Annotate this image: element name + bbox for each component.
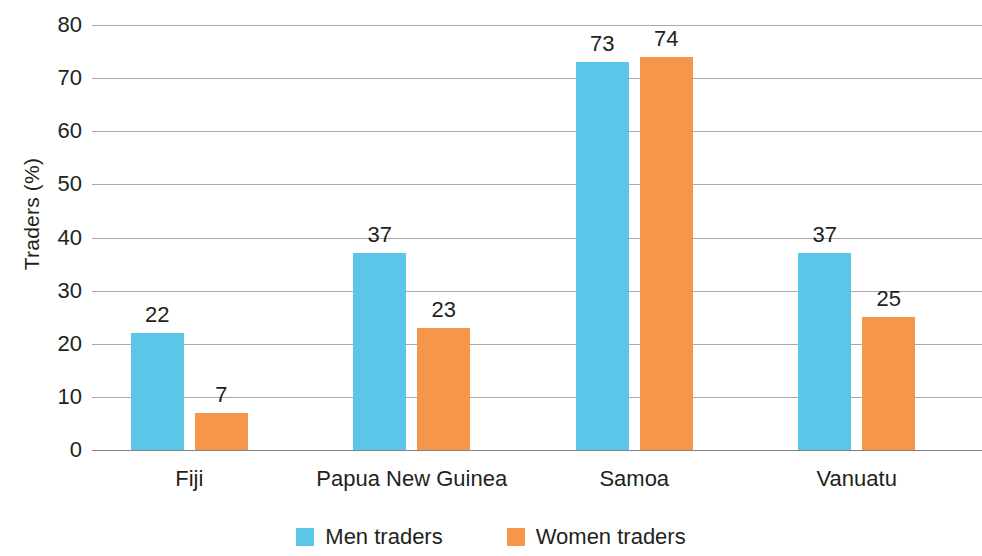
bar (862, 317, 915, 450)
y-axis-tick-label: 70 (12, 65, 82, 91)
bar-value-label: 25 (877, 286, 901, 312)
legend-swatch-icon (296, 528, 314, 546)
legend-item[interactable]: Men traders (296, 524, 442, 550)
gridline (92, 78, 982, 79)
bar-value-label: 37 (368, 222, 392, 248)
bar (640, 57, 693, 450)
chart-legend: Men tradersWomen traders (0, 524, 982, 550)
bar-value-label: 74 (654, 26, 678, 52)
legend-swatch-icon (507, 528, 525, 546)
y-axis-tick-label: 40 (12, 225, 82, 251)
bar-value-label: 23 (432, 297, 456, 323)
axis-baseline (92, 450, 982, 451)
legend-item[interactable]: Women traders (507, 524, 686, 550)
y-axis-tick-label: 80 (12, 12, 82, 38)
y-axis-tick-labels: 01020304050607080 (0, 25, 82, 450)
gridline (92, 184, 982, 185)
bar-value-label: 37 (813, 222, 837, 248)
y-axis-tick-label: 30 (12, 278, 82, 304)
y-axis-tick-label: 60 (12, 118, 82, 144)
x-axis-category-label: Fiji (175, 466, 203, 492)
bar (131, 333, 184, 450)
legend-label: Men traders (325, 524, 442, 550)
bar-value-label: 73 (590, 31, 614, 57)
gridline (92, 25, 982, 26)
bar (798, 253, 851, 450)
bar-value-label: 7 (215, 382, 227, 408)
bar-chart: Traders (%) 01020304050607080 2273723737… (0, 0, 982, 556)
x-axis-category-label: Samoa (599, 466, 669, 492)
bar (195, 413, 248, 450)
bar-value-label: 22 (145, 302, 169, 328)
y-axis-tick-label: 20 (12, 331, 82, 357)
bar (417, 328, 470, 450)
legend-label: Women traders (536, 524, 686, 550)
bar (353, 253, 406, 450)
bar (576, 62, 629, 450)
plot-area: 227372373743725 (92, 25, 982, 450)
y-axis-tick-label: 50 (12, 171, 82, 197)
y-axis-tick-label: 10 (12, 384, 82, 410)
gridline (92, 131, 982, 132)
x-axis-category-label: Vanuatu (817, 466, 897, 492)
gridline (92, 238, 982, 239)
x-axis-category-label: Papua New Guinea (316, 466, 507, 492)
y-axis-tick-label: 0 (12, 437, 82, 463)
